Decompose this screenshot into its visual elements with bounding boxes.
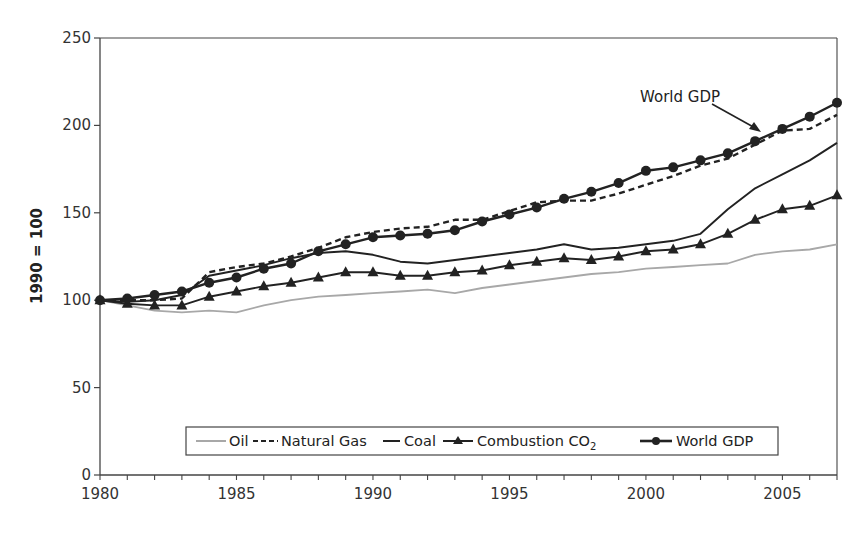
series-natural-gas xyxy=(100,115,837,300)
circle-marker-icon xyxy=(696,155,706,165)
x-tick-label: 1980 xyxy=(81,485,119,503)
circle-marker-icon xyxy=(652,437,660,445)
circle-marker-icon xyxy=(750,136,760,146)
circle-marker-icon xyxy=(477,217,487,227)
circle-marker-icon xyxy=(614,178,624,188)
series-layer xyxy=(95,98,843,313)
series-line xyxy=(100,195,837,305)
triangle-marker-icon xyxy=(367,266,378,276)
circle-marker-icon xyxy=(586,187,596,197)
y-tick-label: 100 xyxy=(62,291,91,309)
circle-marker-icon xyxy=(95,295,105,305)
series-line xyxy=(100,115,837,300)
legend-oil-label: Oil xyxy=(229,433,248,449)
line-chart: 1990 = 100 05010015020025019801985199019… xyxy=(0,0,866,540)
x-tick-label: 2000 xyxy=(627,485,665,503)
circle-marker-icon xyxy=(423,229,433,239)
circle-marker-icon xyxy=(259,264,269,274)
y-tick-label: 0 xyxy=(81,466,91,484)
x-tick-label: 1985 xyxy=(217,485,255,503)
triangle-marker-icon xyxy=(340,266,351,276)
circle-marker-icon xyxy=(668,162,678,172)
circle-marker-icon xyxy=(231,272,241,282)
circle-marker-icon xyxy=(559,194,569,204)
circle-marker-icon xyxy=(368,232,378,242)
y-tick-label: 50 xyxy=(72,379,91,397)
series-world-gdp xyxy=(95,98,842,306)
circle-marker-icon xyxy=(395,231,405,241)
circle-marker-icon xyxy=(532,203,542,213)
x-tick-label: 1990 xyxy=(354,485,392,503)
y-tick-label: 150 xyxy=(62,204,91,222)
circle-marker-icon xyxy=(504,210,514,220)
y-axis-title: 1990 = 100 xyxy=(28,208,46,304)
arrowhead-icon xyxy=(749,122,761,132)
circle-marker-icon xyxy=(832,98,842,108)
circle-marker-icon xyxy=(177,286,187,296)
circle-marker-icon xyxy=(450,225,460,235)
circle-marker-icon xyxy=(723,148,733,158)
circle-marker-icon xyxy=(122,293,132,303)
circle-marker-icon xyxy=(150,290,160,300)
circle-marker-icon xyxy=(641,166,651,176)
circle-marker-icon xyxy=(341,239,351,249)
legend-gas-label: Natural Gas xyxy=(281,433,367,449)
circle-marker-icon xyxy=(286,258,296,268)
y-tick-label: 200 xyxy=(62,116,91,134)
y-tick-label: 250 xyxy=(62,29,91,47)
annotation-text: World GDP xyxy=(640,88,720,106)
legend-coal-label: Coal xyxy=(404,433,436,449)
x-tick-label: 1995 xyxy=(490,485,528,503)
triangle-marker-icon xyxy=(559,252,570,262)
circle-marker-icon xyxy=(313,246,323,256)
world-gdp-annotation: World GDP xyxy=(640,88,761,132)
legend: Oil Natural Gas Coal Combustion CO2 Worl… xyxy=(186,427,778,455)
x-tick-label: 2005 xyxy=(763,485,801,503)
circle-marker-icon xyxy=(204,278,214,288)
circle-marker-icon xyxy=(805,112,815,122)
circle-marker-icon xyxy=(777,124,787,134)
annotation-arrow-line xyxy=(712,104,757,129)
triangle-marker-icon xyxy=(832,189,843,199)
y-axis-title-text: 1990 = 100 xyxy=(28,208,46,304)
legend-gdp-label: World GDP xyxy=(676,433,754,449)
